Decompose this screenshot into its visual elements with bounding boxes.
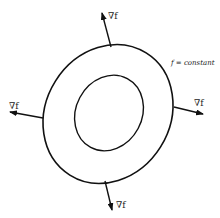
gradient-arrow-bottom [105, 181, 112, 210]
level-curve-label: f = constant [170, 59, 215, 67]
gradient-label-right: ∇f [194, 98, 204, 108]
gradient-arrow-left [10, 112, 43, 118]
outer-level-curve [17, 20, 198, 208]
gradient-label-top: ∇f [108, 11, 118, 21]
gradient-label-bottom: ∇f [116, 200, 126, 210]
inner-level-curve [62, 63, 157, 163]
gradient-arrow-right [174, 107, 203, 114]
gradient-label-left: ∇f [9, 101, 19, 111]
level-curves-diagram: ∇f ∇f ∇f ∇f f = constant [0, 0, 220, 218]
